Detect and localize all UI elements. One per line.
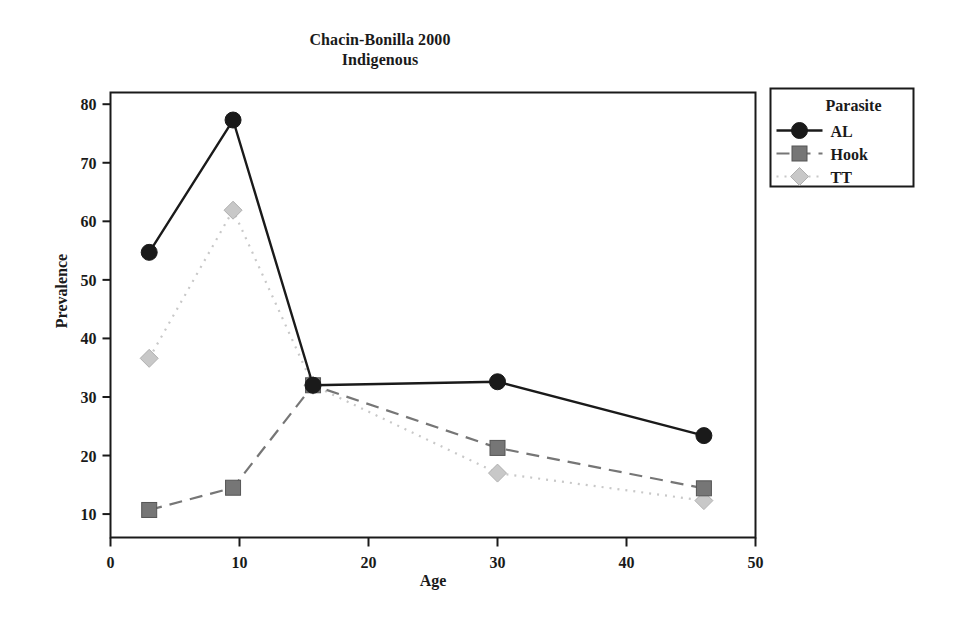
y-tick-label: 80 <box>81 96 97 113</box>
data-point <box>140 349 158 367</box>
chart-legend[interactable]: ParasiteALHookTT <box>771 89 914 187</box>
data-point <box>696 481 711 496</box>
y-tick-label: 20 <box>81 448 97 465</box>
legend-label: TT <box>831 169 853 186</box>
data-point <box>305 377 321 393</box>
x-tick-label: 30 <box>490 554 506 571</box>
legend-title: Parasite <box>826 97 882 114</box>
x-axis-ticks: 01020304050 <box>107 538 764 571</box>
data-point <box>490 374 506 390</box>
series-hook <box>142 378 712 518</box>
data-point <box>226 480 241 495</box>
series-tt <box>140 201 713 509</box>
legend-label: AL <box>831 123 853 140</box>
y-tick-label: 70 <box>81 155 97 172</box>
x-tick-label: 0 <box>107 554 115 571</box>
y-tick-label: 10 <box>81 506 97 523</box>
series-line <box>149 120 704 436</box>
y-tick-label: 30 <box>81 389 97 406</box>
series-al <box>141 112 712 444</box>
legend-marker <box>792 123 808 139</box>
legend-label: Hook <box>831 146 868 163</box>
y-tick-label: 40 <box>81 330 97 347</box>
data-point <box>696 428 712 444</box>
x-tick-label: 40 <box>619 554 635 571</box>
data-point <box>224 201 242 219</box>
x-tick-label: 10 <box>232 554 248 571</box>
y-axis-ticks: 1020304050607080 <box>81 96 111 523</box>
y-tick-label: 60 <box>81 213 97 230</box>
data-point <box>142 502 157 517</box>
series-line <box>149 210 704 500</box>
data-point <box>490 440 505 455</box>
x-tick-label: 50 <box>748 554 764 571</box>
chart-figure: Chacin-Bonilla 2000 Indigenous Prevalenc… <box>0 0 960 626</box>
series-layer <box>140 112 713 517</box>
data-point <box>141 244 157 260</box>
plot-area: 1020304050607080 01020304050 ParasiteALH… <box>0 0 960 626</box>
legend-marker <box>792 146 807 161</box>
x-tick-label: 20 <box>361 554 377 571</box>
data-point <box>489 464 507 482</box>
y-tick-label: 50 <box>81 272 97 289</box>
data-point <box>225 112 241 128</box>
